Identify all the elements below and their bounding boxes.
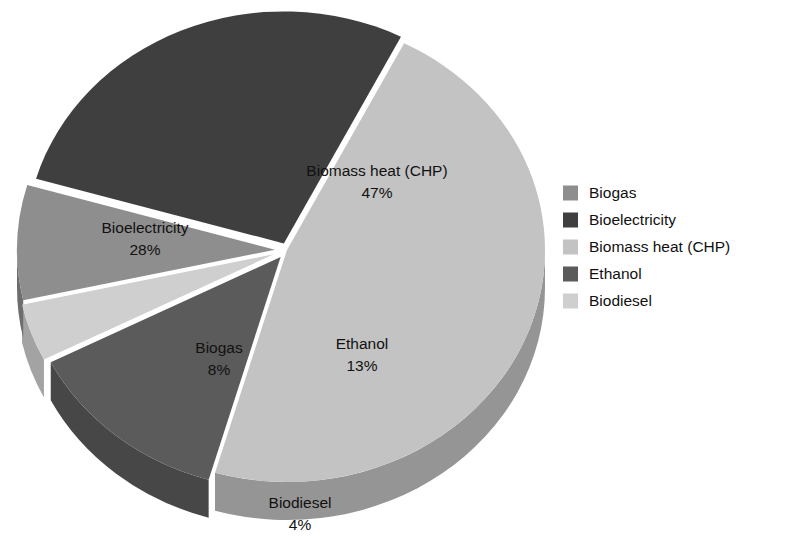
pie-slices (17, 11, 545, 482)
slice-value-ethanol: 13% (346, 357, 377, 374)
legend-swatch-ethanol (563, 267, 578, 282)
slice-value-biomass-heat-chp: 47% (361, 184, 392, 201)
legend-label-biomass-heat-chp: Biomass heat (CHP) (589, 238, 730, 255)
legend-label-bioelectricity: Bioelectricity (589, 211, 676, 228)
pie-chart-svg: Biomass heat (CHP)47%Ethanol13%Biodiesel… (0, 0, 787, 553)
chart-legend: BiogasBioelectricityBiomass heat (CHP)Et… (563, 184, 730, 309)
legend-item-biomass-heat-chp[interactable]: Biomass heat (CHP) (563, 238, 730, 255)
legend-swatch-biogas (563, 186, 578, 201)
legend-label-ethanol: Ethanol (589, 265, 642, 282)
legend-item-biogas[interactable]: Biogas (563, 184, 637, 201)
legend-item-bioelectricity[interactable]: Bioelectricity (563, 211, 676, 228)
slice-label-bioelectricity: Bioelectricity (102, 219, 189, 236)
slice-label-biomass-heat-chp: Biomass heat (CHP) (306, 162, 447, 179)
slice-value-bioelectricity: 28% (129, 241, 160, 258)
legend-item-ethanol[interactable]: Ethanol (563, 265, 642, 282)
legend-label-biogas: Biogas (589, 184, 637, 201)
slice-label-biodiesel: Biodiesel (269, 494, 332, 511)
legend-swatch-biodiesel (563, 294, 578, 309)
slice-value-biodiesel: 4% (289, 516, 312, 533)
legend-label-biodiesel: Biodiesel (589, 292, 652, 309)
legend-item-biodiesel[interactable]: Biodiesel (563, 292, 652, 309)
legend-swatch-biomass-heat-chp (563, 240, 578, 255)
pie-chart-figure: Biomass heat (CHP)47%Ethanol13%Biodiesel… (0, 0, 787, 553)
slice-label-ethanol: Ethanol (336, 335, 389, 352)
slice-value-biogas: 8% (208, 361, 231, 378)
slice-label-biogas: Biogas (195, 339, 243, 356)
legend-swatch-bioelectricity (563, 213, 578, 228)
